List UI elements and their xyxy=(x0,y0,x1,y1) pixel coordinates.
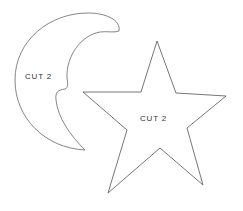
crescent-moon-outline xyxy=(15,13,119,150)
template-canvas xyxy=(0,0,243,211)
star-cut-label: CUT 2 xyxy=(140,114,167,123)
moon-cut-label: CUT 2 xyxy=(25,72,52,81)
